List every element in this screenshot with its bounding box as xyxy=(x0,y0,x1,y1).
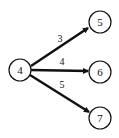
node-label: 5 xyxy=(97,16,103,28)
edge-4-7: 5 xyxy=(30,75,89,112)
edge-weight-label: 4 xyxy=(60,56,65,67)
edge-4-6: 4 xyxy=(31,56,88,71)
node-label: 4 xyxy=(17,64,23,76)
node-5: 5 xyxy=(89,11,111,33)
graph-diagram: 3 4 5 4 5 6 7 xyxy=(0,0,119,138)
node-7: 7 xyxy=(89,107,111,129)
edge-weight-label: 3 xyxy=(58,33,63,44)
node-label: 7 xyxy=(97,112,103,124)
node-6: 6 xyxy=(89,61,111,83)
node-4: 4 xyxy=(9,59,31,81)
node-label: 6 xyxy=(97,66,103,78)
edge-weight-label: 5 xyxy=(60,79,65,90)
arrow-icon xyxy=(31,70,88,71)
